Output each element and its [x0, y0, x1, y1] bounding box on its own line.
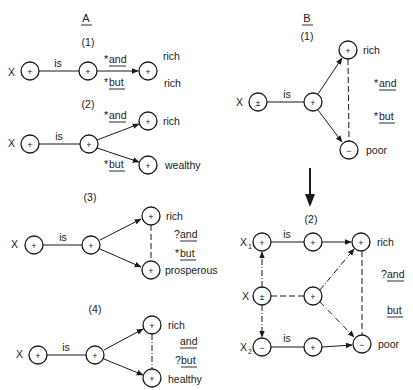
- diagram-a3: (3) X is + + + + rich ? and * but prospe…: [11, 191, 218, 279]
- connective-mark: *: [104, 109, 108, 121]
- predicate-label: poor: [378, 338, 400, 350]
- node-plus: +: [139, 62, 157, 80]
- node-plus: +: [82, 236, 100, 254]
- svg-text:+: +: [92, 351, 97, 361]
- diagram-b1: (1) X is ± + + − rich * and * but poor: [236, 30, 397, 159]
- svg-text:−: −: [259, 343, 264, 353]
- node-x2-minus: −: [253, 338, 271, 356]
- node-plus: +: [339, 41, 357, 59]
- node-plus: +: [142, 261, 160, 279]
- diagram-number: (1): [301, 30, 314, 42]
- node-poor-minus: −: [353, 335, 371, 353]
- copula-label: is: [283, 332, 291, 344]
- svg-text:+: +: [259, 238, 264, 248]
- predicate-label: rich: [166, 210, 183, 222]
- svg-text:+: +: [27, 67, 32, 77]
- subject-label: X: [11, 238, 18, 250]
- predicate-label: rich: [163, 115, 180, 127]
- predicate-label: rich: [363, 44, 380, 56]
- node-plus: +: [79, 62, 97, 80]
- svg-text:+: +: [35, 351, 40, 361]
- connective-mark: *: [175, 247, 179, 259]
- panel-b-title: B: [303, 12, 310, 24]
- copula-label: is: [62, 341, 70, 353]
- connective-and: and: [387, 268, 405, 280]
- diagram-b2: (2) X 1 X X 2 is is + ± − + +: [240, 213, 405, 356]
- copula-label: is: [54, 57, 62, 69]
- copula-label: is: [59, 231, 67, 243]
- connective-and: and: [109, 53, 127, 65]
- node-plus: +: [143, 316, 161, 334]
- connective-but: but: [181, 354, 196, 366]
- predicate-label: healthy: [168, 373, 203, 385]
- diagram-canvas: A (1) X is + + + * and * but rich rich (…: [0, 0, 413, 390]
- svg-text:±: ±: [256, 98, 261, 108]
- node-plus: +: [304, 338, 322, 356]
- panel-a-title: A: [82, 12, 90, 24]
- node-plus: +: [25, 236, 43, 254]
- diagram-number: (2): [305, 213, 318, 225]
- connective-and: and: [379, 77, 397, 89]
- predicate-label: rich: [168, 319, 185, 331]
- svg-text:+: +: [85, 67, 90, 77]
- node-plus: +: [21, 62, 39, 80]
- diagram-a4: (4) X is + + + + rich and ? but healthy: [16, 303, 203, 387]
- node-plus: +: [86, 346, 104, 364]
- svg-text:+: +: [27, 140, 32, 150]
- diagram-number: (1): [82, 36, 95, 48]
- svg-text:+: +: [310, 292, 315, 302]
- node-minus: −: [340, 141, 358, 159]
- subject-label: X: [236, 96, 243, 108]
- connective-but: but: [379, 110, 394, 122]
- copula-label: is: [55, 130, 63, 142]
- connective-and: and: [180, 228, 198, 240]
- subject-label-x1: X: [240, 236, 247, 248]
- node-plus: +: [304, 93, 322, 111]
- node-plus: +: [304, 233, 322, 251]
- connective-mark: *: [374, 77, 378, 89]
- connective-and: and: [109, 109, 127, 121]
- svg-text:+: +: [148, 212, 153, 222]
- svg-text:+: +: [145, 161, 150, 171]
- diagram-number: (3): [84, 191, 97, 203]
- subject-label: X: [8, 66, 15, 78]
- predicate-label: rich: [164, 77, 181, 89]
- diagram-a2: (2) X is + + + + * and * but rich wealth…: [8, 98, 201, 174]
- predicate-label: rich: [163, 50, 180, 62]
- node-plus: +: [29, 346, 47, 364]
- copula-label: is: [283, 228, 291, 240]
- svg-text:+: +: [149, 374, 154, 384]
- predicate-label: prosperous: [165, 264, 218, 276]
- svg-text:+: +: [310, 98, 315, 108]
- node-plus: +: [142, 207, 160, 225]
- node-plus: +: [80, 135, 98, 153]
- connective-mark: *: [104, 53, 108, 65]
- svg-text:+: +: [310, 343, 315, 353]
- node-plus: +: [139, 156, 157, 174]
- svg-text:−: −: [346, 146, 351, 156]
- svg-text:+: +: [358, 238, 363, 248]
- diagram-a1: (1) X is + + + * and * but rich rich: [8, 36, 181, 89]
- node-plus: +: [139, 112, 157, 130]
- node-plus: +: [143, 369, 161, 387]
- svg-text:+: +: [145, 117, 150, 127]
- predicate-label: poor: [366, 144, 388, 156]
- connective-but: but: [109, 158, 124, 170]
- predicate-label: rich: [377, 236, 394, 248]
- node-plus: +: [21, 135, 39, 153]
- svg-text:+: +: [310, 238, 315, 248]
- subscript: 1: [248, 243, 252, 250]
- svg-text:±: ±: [260, 292, 265, 302]
- svg-text:+: +: [88, 241, 93, 251]
- diagram-number: (2): [82, 98, 95, 110]
- svg-text:+: +: [345, 46, 350, 56]
- panel-a: A (1) X is + + + * and * but rich rich (…: [8, 12, 218, 387]
- connective-but: but: [387, 304, 402, 316]
- connective-but: but: [180, 247, 195, 259]
- node-x1-plus: +: [253, 233, 271, 251]
- svg-text:+: +: [145, 67, 150, 77]
- diagram-number: (4): [89, 303, 102, 315]
- connective-mark: *: [374, 110, 378, 122]
- connective-and: and: [180, 335, 198, 347]
- panel-b: B (1) X is ± + + − rich * and * but poor: [236, 12, 405, 356]
